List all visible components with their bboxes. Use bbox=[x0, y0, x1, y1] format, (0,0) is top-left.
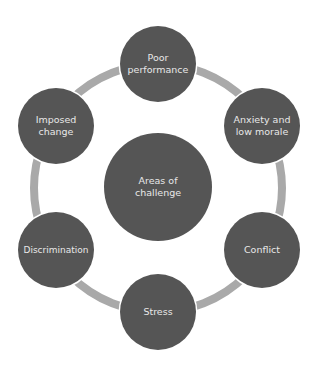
node-label: Conflict bbox=[244, 244, 280, 256]
node-label: Poor performance bbox=[128, 52, 189, 76]
node-label: Stress bbox=[143, 306, 172, 318]
node-anxiety-low-morale: Anxiety and low morale bbox=[224, 88, 300, 164]
node-label: Anxiety and low morale bbox=[234, 114, 291, 138]
node-label: Discrimination bbox=[24, 244, 89, 256]
node-stress: Stress bbox=[120, 274, 196, 350]
node-imposed-change: Imposed change bbox=[18, 88, 94, 164]
center-label: Areas of challenge bbox=[135, 175, 181, 199]
node-conflict: Conflict bbox=[224, 212, 300, 288]
node-poor-performance: Poor performance bbox=[120, 26, 196, 102]
node-label: Imposed change bbox=[36, 114, 77, 138]
node-discrimination: Discrimination bbox=[18, 212, 94, 288]
center-node-areas-of-challenge: Areas of challenge bbox=[104, 133, 212, 241]
